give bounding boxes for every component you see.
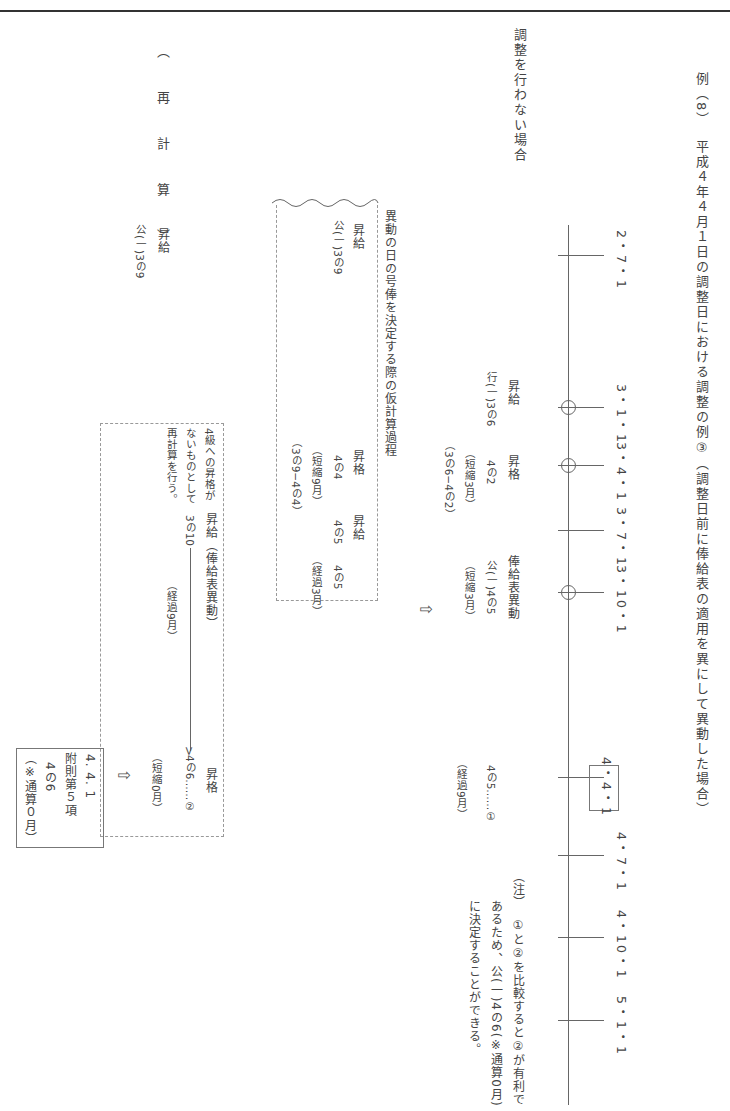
prov-col1-type: 昇給 — [350, 224, 364, 250]
footnote-line-1: ①と②を比較すると②が有利で — [510, 918, 524, 1106]
event-grade: 行(一)3の6 — [485, 372, 497, 427]
event-circle-3-1-1 — [561, 400, 576, 415]
tick-4-10-1 — [558, 937, 604, 938]
recalc-note-1: 4級への昇格が — [203, 428, 215, 501]
example-number: 例（8） — [693, 72, 708, 127]
recalc-step-label: 昇給（俸給表異動） — [203, 513, 217, 630]
date-label: 4・7・1 — [612, 832, 631, 892]
event-circle-3-10-1 — [561, 585, 576, 600]
prov-col1-grade: 公(一)3の9 — [332, 220, 344, 275]
date-label: 3・7・1 — [612, 507, 631, 567]
prov-col4-note: （経過3月） — [310, 555, 322, 617]
event-circle-3-4-1 — [561, 458, 576, 473]
date-label: 3・4・1 — [612, 442, 631, 502]
prov-col2-note1: （短縮9月） — [310, 445, 322, 507]
arrow-down-icon: ⇩ — [115, 769, 134, 782]
event-type: 俸給表異動 — [505, 555, 519, 620]
result-note: （※通算０月） — [22, 752, 36, 845]
footnote-mark: （注） — [510, 870, 524, 909]
tick-2-7-1 — [558, 255, 604, 256]
page-title: 平成４年４月１日の調整日における調整の例③（調整日前に俸給表の適用を異にして異動… — [693, 140, 708, 817]
recalc-elapsed: （経過9月） — [165, 580, 177, 642]
result-2: 4の6……② — [184, 755, 196, 812]
recalc-start: 3の10 — [184, 515, 196, 546]
date-label: 4・10・1 — [612, 910, 631, 980]
footnote-line-2: あるため、公(一)4の6(※通算0月) — [488, 900, 502, 1107]
wavy-edge-icon — [270, 196, 380, 210]
prov-col3-type: 昇給 — [350, 515, 364, 541]
recalc-arrow-line — [190, 548, 191, 751]
provisional-title: 異動の日の号俸を決定する際の仮計算過程 — [382, 210, 396, 457]
prov-col4-grade: 4の5 — [332, 565, 344, 589]
event-grade: 4の2 — [485, 460, 497, 484]
recalc-label: （ 再 計 算 ） — [155, 45, 170, 252]
provisional-box — [276, 205, 378, 601]
result-date: 4. 4. 1 — [82, 754, 96, 799]
page-top-rule — [0, 10, 730, 12]
date-label: 2・7・1 — [612, 230, 631, 290]
event-note: （短縮3月） — [463, 560, 475, 622]
result-1-note: （経過9月） — [455, 758, 467, 820]
date-label: 3・10・1 — [612, 565, 631, 635]
recalc-end-note: （短縮0月） — [150, 752, 162, 814]
recalc-grade: 公(一)3の9 — [134, 224, 146, 279]
footnote-line-3: に決定することができる。 — [466, 900, 480, 1056]
prov-col2-type: 昇格 — [350, 450, 364, 476]
event-type: 昇給 — [505, 380, 519, 406]
date-label: 3・1・1 — [612, 384, 631, 444]
recalc-note-3: 再計算を行う。 — [165, 428, 177, 505]
recalc-end-type: 昇格 — [203, 768, 217, 794]
tick-3-7-1 — [558, 530, 604, 531]
result-grade: 4の6 — [42, 762, 56, 792]
event-note: （短縮3月） — [463, 448, 475, 510]
date-label: 5・1・1 — [612, 996, 631, 1056]
recalc-note-2: ないものとして — [184, 428, 196, 505]
tick-5-1-1 — [558, 1020, 604, 1021]
event-grade: 公(一)4の5 — [485, 560, 497, 615]
result-basis: 附則第５項 — [62, 752, 76, 817]
prov-col3-grade: 4の5 — [332, 520, 344, 544]
prov-col2-note2: （3の9−4の4） — [290, 437, 302, 517]
section-label: 調整を行わない場合 — [512, 28, 527, 163]
timeline-axis — [568, 225, 569, 1105]
arrow-down-icon: ⇩ — [417, 603, 436, 616]
event-type: 昇格 — [505, 455, 519, 481]
date-label: 4・4・1 — [597, 757, 616, 817]
recalc-type: 昇給 — [155, 228, 169, 254]
tick-4-7-1 — [558, 855, 604, 856]
prov-col2-grade: 4の4 — [332, 455, 344, 479]
result-1: 4の5……① — [485, 765, 497, 822]
event-note: （3の6−4の2） — [443, 440, 455, 520]
